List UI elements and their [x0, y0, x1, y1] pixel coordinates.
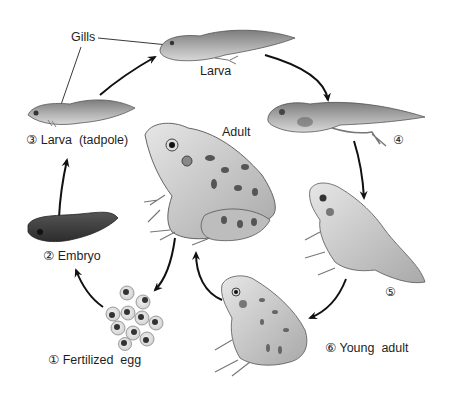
young-adult-frog-illustration — [215, 276, 307, 376]
young-adult-label: ⑥ Young adult — [325, 342, 409, 355]
fertilized-egg-label: ① Fertilized egg — [48, 354, 141, 367]
arrow-tadpole-to-larva — [100, 57, 155, 95]
stage-4-label: ④ — [393, 134, 404, 146]
adult-label: Adult — [222, 126, 251, 139]
embryo-label: ② Embryo — [43, 250, 101, 263]
gills-label: Gills — [71, 31, 95, 44]
adult-frog-illustration — [144, 123, 275, 245]
arrow-eggs-to-embryo — [76, 270, 103, 307]
arrow-adult-to-eggs — [155, 238, 175, 290]
frog-life-cycle-diagram: Gills Larva ③ Larva (tadpole) Adult ④ ② … — [0, 0, 456, 408]
tadpole-stage3-illustration — [28, 100, 135, 127]
larva-tadpole-label: ③ Larva (tadpole) — [26, 134, 128, 147]
arrow-stage5-to-young-adult — [310, 279, 346, 318]
larva-label: Larva — [200, 65, 231, 78]
arrow-larva-to-stage4 — [265, 55, 328, 100]
eggs-illustration — [106, 286, 163, 351]
froglet-stage5-illustration — [305, 183, 425, 283]
embryo-illustration — [28, 212, 118, 241]
arrow-stage4-to-stage5 — [354, 141, 364, 198]
arrow-embryo-to-tadpole — [59, 160, 67, 218]
stage-5-label: ⑤ — [385, 286, 396, 298]
arrow-young-adult-to-adult — [196, 253, 222, 300]
